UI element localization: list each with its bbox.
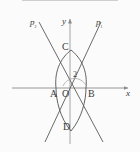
label-x-axis: x (126, 89, 130, 98)
label-origin: O (62, 89, 69, 99)
right-arc-curve (71, 50, 86, 131)
label-point-b: B (88, 89, 95, 99)
label-point-c: C (62, 42, 69, 52)
label-y-axis: y (62, 17, 66, 26)
line-p2 (39, 22, 103, 142)
label-measure-2: 2 (73, 71, 77, 79)
label-point-d: D (63, 122, 70, 132)
geometry-figure: p2 p1 y x C D A O B 2 (0, 0, 140, 152)
line-p1 (45, 22, 101, 142)
label-point-a: A (50, 89, 57, 99)
label-line-p1: p1 (96, 18, 103, 29)
label-line-p2: p2 (30, 18, 37, 29)
